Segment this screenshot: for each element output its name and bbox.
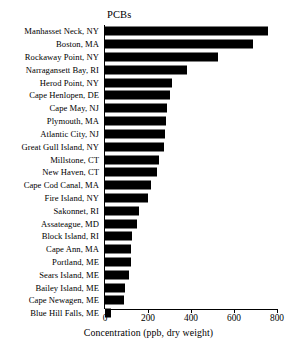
- category-label: Block Island, RI: [42, 231, 99, 241]
- bar-row: Cape Henlopen, DE: [0, 89, 297, 102]
- x-tick-label: 0: [103, 313, 108, 324]
- category-label: Manhasset Neck, NY: [24, 26, 99, 36]
- bar: [105, 91, 170, 100]
- x-axis-label: Concentration (ppb, dry weight): [0, 327, 297, 339]
- bar-row: Cape Newagen, ME: [0, 294, 297, 307]
- bar: [105, 40, 253, 49]
- bar-row: Boston, MA: [0, 38, 297, 51]
- bar-row: Narragansett Bay, RI: [0, 63, 297, 76]
- category-label: Sakonnet, RI: [54, 206, 99, 216]
- bar-row: Cape Ann, MA: [0, 243, 297, 256]
- bar: [105, 193, 148, 202]
- category-label: Millstone, CT: [50, 155, 99, 165]
- bar: [105, 270, 129, 279]
- category-label: Bailey Island, ME: [35, 283, 99, 293]
- x-tick-label: 200: [141, 313, 155, 324]
- category-label: Cape Ann, MA: [46, 244, 99, 254]
- bar-row: Portland, ME: [0, 256, 297, 269]
- category-label: Cape Henlopen, DE: [29, 90, 99, 100]
- category-label: Assateague, MD: [41, 219, 99, 229]
- category-label: Cape May, NJ: [50, 103, 99, 113]
- category-label: Plymouth, MA: [47, 116, 99, 126]
- bar-row: Sears Island, ME: [0, 268, 297, 281]
- bar: [105, 129, 165, 138]
- category-label: Narragansett Bay, RI: [26, 65, 99, 75]
- x-tick-label: 800: [270, 313, 284, 324]
- bar: [105, 206, 139, 215]
- bar-row: Millstone, CT: [0, 153, 297, 166]
- bar: [105, 155, 159, 164]
- category-label: Cape Newagen, ME: [29, 295, 99, 305]
- bar-row: Great Gull Island, NY: [0, 140, 297, 153]
- bar: [105, 181, 151, 190]
- bar-row: Cape May, NJ: [0, 102, 297, 115]
- bar: [105, 283, 125, 292]
- category-label: Sears Island, ME: [39, 270, 99, 280]
- chart-title: PCBs: [107, 9, 131, 21]
- bar-row: Bailey Island, ME: [0, 281, 297, 294]
- bar: [105, 65, 187, 74]
- x-tick-label: 400: [184, 313, 198, 324]
- pcb-concentration-bar-chart: PCBs Manhasset Neck, NYBoston, MARockawa…: [0, 0, 297, 352]
- category-label: Portland, ME: [52, 257, 99, 267]
- category-label: Atlantic City, NJ: [40, 129, 99, 139]
- bar: [105, 104, 167, 113]
- bar: [105, 296, 124, 305]
- bar-row: Herod Point, NY: [0, 76, 297, 89]
- category-label: Fire Island, NY: [45, 193, 99, 203]
- bar-row: Plymouth, MA: [0, 115, 297, 128]
- bar: [105, 142, 164, 151]
- bar: [105, 117, 166, 126]
- bar-row: Manhasset Neck, NY: [0, 25, 297, 38]
- bar-row: New Haven, CT: [0, 166, 297, 179]
- bar: [105, 219, 137, 228]
- bar: [105, 27, 268, 36]
- bars-container: Manhasset Neck, NYBoston, MARockaway Poi…: [0, 25, 297, 309]
- bar: [105, 232, 132, 241]
- category-label: Cape Cod Canal, MA: [24, 180, 99, 190]
- category-label: New Haven, CT: [42, 167, 99, 177]
- category-label: Boston, MA: [56, 39, 99, 49]
- category-label: Rockaway Point, NY: [25, 52, 99, 62]
- bar-row: Cape Cod Canal, MA: [0, 179, 297, 192]
- bar: [105, 53, 218, 62]
- x-tick-label: 600: [227, 313, 241, 324]
- bar: [105, 168, 157, 177]
- category-label: Great Gull Island, NY: [22, 142, 99, 152]
- category-label: Blue Hill Falls, ME: [30, 308, 99, 318]
- bar-row: Fire Island, NY: [0, 192, 297, 205]
- bar-row: Assateague, MD: [0, 217, 297, 230]
- bar-row: Sakonnet, RI: [0, 204, 297, 217]
- bar: [105, 258, 131, 267]
- bar-row: Block Island, RI: [0, 230, 297, 243]
- bar: [105, 78, 172, 87]
- category-label: Herod Point, NY: [40, 78, 99, 88]
- bar-row: Atlantic City, NJ: [0, 128, 297, 141]
- bar-row: Rockaway Point, NY: [0, 51, 297, 64]
- bar: [105, 245, 131, 254]
